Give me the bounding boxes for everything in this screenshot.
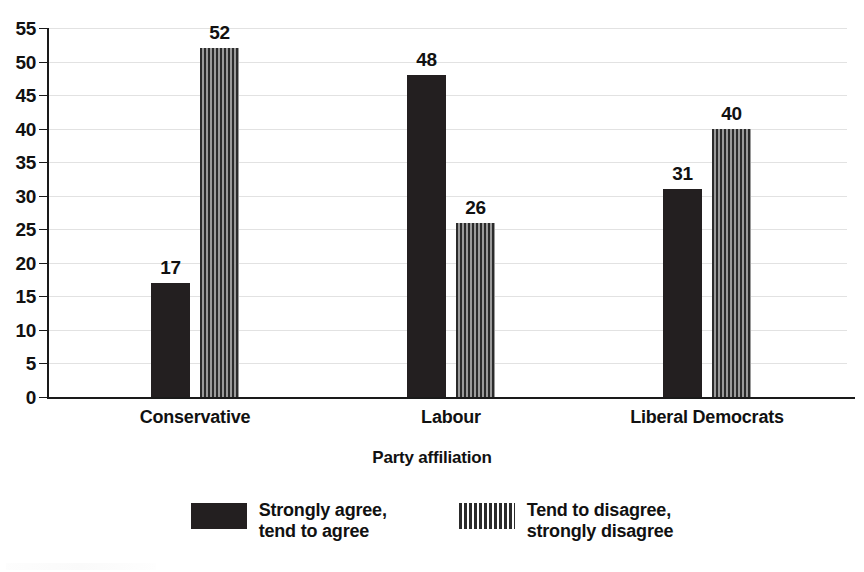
bar xyxy=(663,189,702,397)
gridline xyxy=(49,28,847,29)
bar-value-label: 52 xyxy=(186,23,253,42)
y-axis-tick-label: 5 xyxy=(0,354,36,373)
bar xyxy=(151,283,190,397)
plot-area: 175248263140 xyxy=(47,28,855,397)
y-axis-tick-label: 10 xyxy=(0,321,36,340)
category-label: Labour xyxy=(331,408,571,426)
legend-label: Strongly agree, tend to agree xyxy=(259,500,387,542)
bar-value-label: 48 xyxy=(393,50,460,69)
y-axis-tick xyxy=(39,62,48,63)
bar-value-label: 17 xyxy=(137,258,204,277)
x-axis-title: Party affiliation xyxy=(0,448,864,468)
y-axis-tick xyxy=(39,397,48,398)
bar-value-label: 31 xyxy=(649,164,716,183)
y-axis-tick-label: 20 xyxy=(0,254,36,273)
y-axis-tick-label: 35 xyxy=(0,153,36,172)
y-axis-tick xyxy=(39,263,48,264)
bar xyxy=(712,129,751,397)
page-edge-artifact xyxy=(6,563,156,570)
legend-label: Tend to disagree, strongly disagree xyxy=(527,500,674,542)
y-axis-tick xyxy=(39,129,48,130)
y-axis-line xyxy=(47,28,49,397)
y-axis-tick-label: 50 xyxy=(0,53,36,72)
bar-chart: 175248263140 0510152025303540455055 Cons… xyxy=(0,0,864,572)
y-axis-tick-label: 0 xyxy=(0,388,36,407)
bar xyxy=(407,75,446,397)
y-axis-tick-label: 30 xyxy=(0,187,36,206)
gridline xyxy=(49,95,847,96)
y-axis-tick xyxy=(39,330,48,331)
y-axis-tick-label: 15 xyxy=(0,287,36,306)
bar xyxy=(456,223,495,397)
y-axis-tick xyxy=(39,162,48,163)
legend-swatch-solid-icon xyxy=(191,503,247,529)
y-axis-tick-label: 25 xyxy=(0,220,36,239)
category-label: Liberal Democrats xyxy=(587,408,827,426)
bar-value-label: 26 xyxy=(442,198,509,217)
y-axis-tick-label: 40 xyxy=(0,120,36,139)
y-axis-tick xyxy=(39,196,48,197)
y-axis-tick-label: 45 xyxy=(0,86,36,105)
legend-item: Tend to disagree, strongly disagree xyxy=(459,500,674,542)
y-axis-tick xyxy=(39,28,48,29)
category-label: Conservative xyxy=(75,408,315,426)
bar-value-label: 40 xyxy=(698,104,765,123)
y-axis-tick xyxy=(39,95,48,96)
y-axis-tick xyxy=(39,229,48,230)
y-axis-tick xyxy=(39,363,48,364)
bar xyxy=(200,48,239,397)
legend-swatch-striped-icon xyxy=(459,503,515,529)
chart-legend: Strongly agree, tend to agreeTend to dis… xyxy=(0,500,864,542)
legend-item: Strongly agree, tend to agree xyxy=(191,500,387,542)
y-axis-tick-label: 55 xyxy=(0,19,36,38)
x-axis-line xyxy=(47,397,855,399)
y-axis-tick xyxy=(39,296,48,297)
